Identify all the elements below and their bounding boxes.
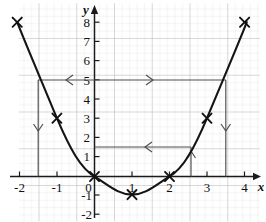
x-tick-label-0: 0 — [85, 180, 92, 195]
y-tick-label-5: 5 — [84, 73, 91, 88]
y-axis-label: y — [81, 2, 89, 17]
coordinate-graph-svg: 8 7 6 5 4 3 2 1 -1 -2 -2 -1 0 1 2 3 4 y … — [0, 0, 266, 222]
y-tick-label--2: -2 — [81, 207, 92, 222]
y-tick-label-7: 7 — [84, 34, 91, 49]
x-tick-label-4: 4 — [241, 180, 248, 195]
x-tick-label--1: -1 — [52, 180, 63, 195]
x-tick-label-1: 1 — [129, 180, 136, 195]
x-tick-label--2: -2 — [14, 180, 25, 195]
y-tick-label-2: 2 — [84, 130, 91, 145]
graph-figure: 8 7 6 5 4 3 2 1 -1 -2 -2 -1 0 1 2 3 4 y … — [0, 0, 266, 222]
y-tick-label-6: 6 — [84, 53, 91, 68]
x-tick-label-3: 3 — [204, 180, 211, 195]
y-tick-label-1: 1 — [84, 149, 91, 164]
y-tick-label-8: 8 — [84, 15, 91, 30]
y-tick-label-4: 4 — [84, 92, 91, 107]
y-tick-label-3: 3 — [84, 111, 91, 126]
x-tick-label-2: 2 — [166, 180, 173, 195]
x-axis-label: x — [257, 179, 265, 194]
